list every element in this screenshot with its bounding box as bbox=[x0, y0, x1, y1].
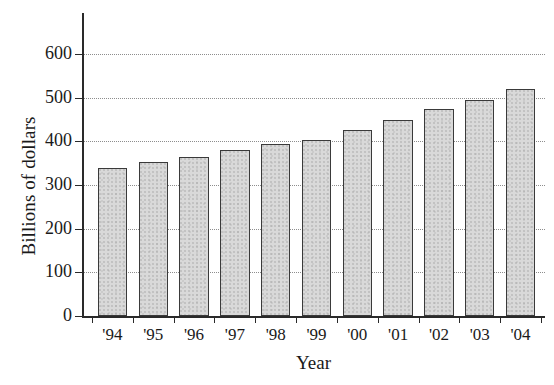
x-tick-label: '00 bbox=[337, 325, 378, 345]
bar bbox=[343, 130, 372, 316]
y-tick-mark bbox=[75, 272, 83, 273]
x-tick-label: '99 bbox=[296, 325, 337, 345]
x-tick-mark bbox=[500, 316, 501, 323]
x-tick-label: '01 bbox=[378, 325, 419, 345]
x-tick-label: '04 bbox=[500, 325, 541, 345]
x-tick-mark bbox=[337, 316, 338, 323]
x-tick-mark bbox=[255, 316, 256, 323]
bar-chart-figure: Billions of dollars '94'95'96'97'98'99'0… bbox=[0, 0, 554, 385]
x-tick-mark bbox=[133, 316, 134, 323]
bar bbox=[98, 168, 127, 316]
y-tick-label: 600 bbox=[20, 43, 72, 64]
y-tick-label: 200 bbox=[20, 218, 72, 239]
x-tick-label: '94 bbox=[92, 325, 133, 345]
x-tick-mark bbox=[459, 316, 460, 323]
x-tick-label: '03 bbox=[459, 325, 500, 345]
y-tick-mark bbox=[75, 185, 83, 186]
x-tick-mark bbox=[378, 316, 379, 323]
x-tick-mark bbox=[214, 316, 215, 323]
x-tick-mark bbox=[296, 316, 297, 323]
x-tick-label: '97 bbox=[214, 325, 255, 345]
x-tick-mark bbox=[174, 316, 175, 323]
bar bbox=[139, 162, 168, 316]
x-tick-mark bbox=[419, 316, 420, 323]
bar bbox=[261, 144, 290, 316]
bar bbox=[220, 150, 249, 316]
y-tick-mark bbox=[75, 54, 83, 55]
y-tick-mark bbox=[75, 316, 83, 317]
x-tick-mark bbox=[541, 316, 542, 323]
y-tick-label: 300 bbox=[20, 174, 72, 195]
x-axis-title: Year bbox=[82, 352, 545, 374]
y-tick-mark bbox=[75, 141, 83, 142]
bar bbox=[424, 109, 453, 316]
x-tick-label: '02 bbox=[419, 325, 460, 345]
gridline bbox=[84, 54, 545, 55]
y-tick-label: 100 bbox=[20, 261, 72, 282]
bar bbox=[465, 100, 494, 316]
y-tick-label: 0 bbox=[20, 305, 72, 326]
bar bbox=[383, 120, 412, 317]
x-axis-line bbox=[82, 316, 545, 318]
bar bbox=[302, 140, 331, 316]
x-tick-label: '98 bbox=[255, 325, 296, 345]
bar bbox=[506, 89, 535, 316]
x-tick-mark bbox=[92, 316, 93, 323]
x-tick-label: '96 bbox=[174, 325, 215, 345]
y-tick-label: 400 bbox=[20, 130, 72, 151]
y-tick-mark bbox=[75, 98, 83, 99]
bar bbox=[179, 157, 208, 316]
x-tick-label: '95 bbox=[133, 325, 174, 345]
y-tick-label: 500 bbox=[20, 87, 72, 108]
plot-area: '94'95'96'97'98'99'00'01'02'03'04 bbox=[82, 13, 545, 317]
gridline bbox=[84, 98, 545, 99]
y-tick-mark bbox=[75, 229, 83, 230]
